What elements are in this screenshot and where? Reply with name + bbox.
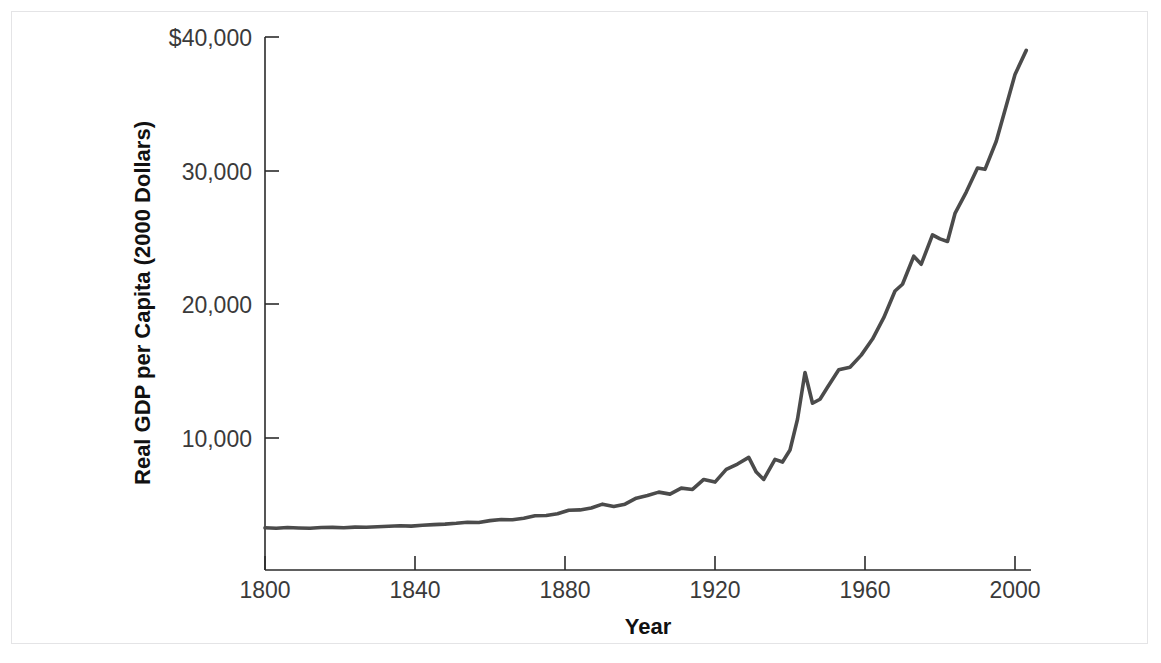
x-axis-title: Year <box>625 614 672 639</box>
x-tick-label-1920: 1920 <box>689 577 740 603</box>
gdp-per-capita-line-chart: $40,000 30,000 20,000 10,000 1800 1840 1… <box>0 0 1161 663</box>
x-tick-label-2000: 2000 <box>989 577 1040 603</box>
y-tick-label-30000: 30,000 <box>182 159 252 185</box>
x-tick-label-1880: 1880 <box>539 577 590 603</box>
y-tick-label-40000: $40,000 <box>169 25 252 51</box>
y-tick-label-20000: 20,000 <box>182 292 252 318</box>
y-tick-label-10000: 10,000 <box>182 426 252 452</box>
chart-root: $40,000 30,000 20,000 10,000 1800 1840 1… <box>0 0 1161 663</box>
y-axis-title: Real GDP per Capita (2000 Dollars) <box>130 121 155 485</box>
x-tick-label-1800: 1800 <box>239 577 290 603</box>
x-tick-label-1840: 1840 <box>389 577 440 603</box>
gdp-series-line <box>265 50 1026 528</box>
x-tick-label-1960: 1960 <box>839 577 890 603</box>
